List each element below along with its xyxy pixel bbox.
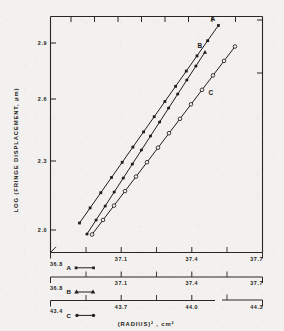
legend-label-B: B <box>67 288 72 295</box>
x-axis-A-tick-368: 36.8 <box>50 261 63 267</box>
y-tick-label-29: 2.9 <box>38 40 47 46</box>
x-axis-C-tick-440: 44.0 <box>185 304 198 310</box>
legend-marker-A-right <box>92 267 95 270</box>
x-axis-C-tick-443: 44.3 <box>250 304 263 310</box>
x-axis-C-tick-437: 43.7 <box>115 304 128 310</box>
x-axis-title: (RADIUS)² , cm² <box>118 321 175 327</box>
x-axis-C: 43.4 43.7 44.0 44.3 C <box>50 295 263 319</box>
x-axis-B: 36.8 37.1 37.4 37.7 B <box>50 272 263 296</box>
x-axis-A-tick-377: 37.7 <box>250 256 263 262</box>
series-label-A: A <box>210 15 215 22</box>
x-axis-C-tick-434: 43.4 <box>50 308 63 314</box>
y-tick-label-20: 2.0 <box>38 227 47 233</box>
x-axis-B-tick-377: 37.7 <box>250 280 263 286</box>
x-axis-B-tick-371: 37.1 <box>115 280 128 286</box>
y-tick-labels: 2.9 2.6 2.3 2.0 <box>38 40 47 233</box>
figure-container: 2.9 2.6 2.3 2.0 LOG (FRINGE DISPLACEMENT… <box>0 0 284 331</box>
x-axis-title-text: (RADIUS)² , cm² <box>118 321 175 327</box>
chart-canvas: 2.9 2.6 2.3 2.0 LOG (FRINGE DISPLACEMENT… <box>0 0 284 331</box>
legend-label-A: A <box>67 264 72 271</box>
series-C: C <box>90 45 237 237</box>
legend-marker-C-left <box>75 314 78 317</box>
legend-marker-C-right <box>92 314 95 317</box>
series-B: B <box>85 42 207 236</box>
x-axis-B-tick-368: 36.8 <box>50 285 63 291</box>
y-axis-title-text: LOG (FRINGE DISPLACEMENT, μm) <box>13 88 19 213</box>
y-tick-label-23: 2.3 <box>38 158 47 164</box>
x-axis-A-tick-371: 37.1 <box>115 256 128 262</box>
x-axis-A-tick-374: 37.4 <box>185 256 198 262</box>
x-axis-A: 36.8 37.1 37.4 37.7 A <box>50 247 263 271</box>
y-tick-label-26: 2.6 <box>38 96 47 102</box>
legend-marker-A-left <box>75 267 78 270</box>
y-axis-title: LOG (FRINGE DISPLACEMENT, μm) <box>13 88 19 213</box>
series-label-B: B <box>197 42 202 49</box>
x-axis-B-tick-374: 37.4 <box>185 280 198 286</box>
series-label-C: C <box>208 89 213 96</box>
legend-label-C: C <box>67 312 72 319</box>
